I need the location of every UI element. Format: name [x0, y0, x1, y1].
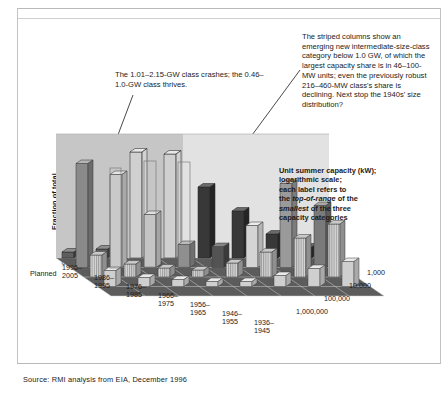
x-tick-1976-1985: 1976–1985 [126, 283, 152, 300]
caption-line-4: the top-of-range of the [279, 194, 419, 203]
caption-line-2: logarithmic scale; [279, 175, 419, 184]
caption-line-5: smallest of the three [279, 204, 419, 213]
x-tick-1946-1955: 1946–1955 [222, 310, 248, 327]
caption-l4a: the [279, 194, 292, 203]
caption-line-1: Unit summer capacity (kW); [279, 166, 419, 175]
caption-line-3: each label refers to [279, 185, 419, 194]
x-tick-1956-1965: 1956–1965 [190, 301, 216, 318]
x-tick-1966-1975: 1966–1975 [158, 292, 184, 309]
caption-line-6: capacity categories [279, 213, 419, 222]
x-tick-1996-2005: 1996–2005 [62, 264, 88, 281]
caption-l5b: smallest [279, 204, 309, 213]
figure-page: The striped columns show an emerging new… [0, 0, 444, 402]
source-note: Source: RMI analysis from EIA, December … [23, 375, 187, 384]
caption-l5c: of the three [309, 204, 351, 213]
three-d-bar-chart: Fraction of total capacity entering serv… [24, 128, 424, 318]
x-tick-planned: Planned [30, 270, 56, 278]
x-tick-1986-1995: 1986–1995 [94, 274, 120, 291]
caption-l4c: of the [336, 194, 358, 203]
depth-axis-caption: Unit summer capacity (kW); logarithmic s… [279, 166, 419, 222]
z-tick-100000: 100,000 [324, 294, 350, 303]
caption-l4b: top-of-range [292, 194, 336, 203]
z-tick-1000: 1,000 [367, 268, 385, 277]
z-tick-1000000: 1,000,000 [296, 307, 328, 316]
x-tick-1936-1945: 1936–1945 [254, 319, 280, 336]
z-tick-10000: 10,000 [349, 281, 371, 290]
